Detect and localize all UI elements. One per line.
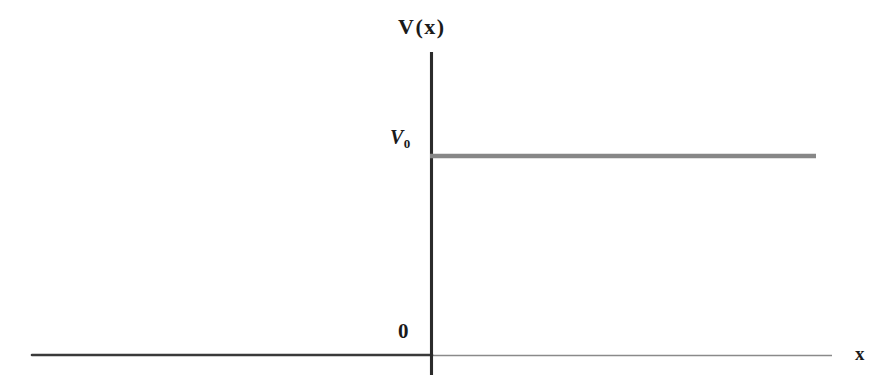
- potential-step-figure: V(x) V0 0 x: [0, 0, 882, 390]
- x-axis-title: x: [855, 344, 865, 363]
- y-axis-title: V(x): [398, 16, 446, 38]
- step-height-label: V0: [390, 127, 410, 150]
- step-height-symbol: V: [390, 126, 403, 148]
- origin-label: 0: [398, 321, 409, 342]
- step-height-subscript: 0: [404, 136, 411, 151]
- plot-canvas: [0, 0, 882, 390]
